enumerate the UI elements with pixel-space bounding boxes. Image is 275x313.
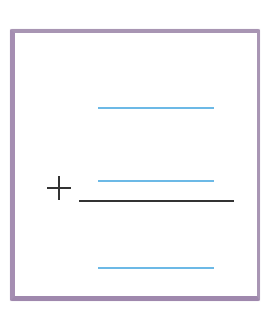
plus-icon: +	[47, 176, 71, 200]
sum-value	[98, 267, 99, 268]
worksheet-frame	[10, 29, 260, 301]
operator-symbol: +	[47, 176, 48, 177]
second-addend-value	[98, 180, 99, 181]
sum-blank[interactable]	[98, 267, 214, 269]
first-addend-value	[98, 107, 99, 108]
second-addend-blank[interactable]	[98, 180, 214, 182]
first-addend-blank[interactable]	[98, 107, 214, 109]
sum-divider-line	[79, 200, 234, 202]
